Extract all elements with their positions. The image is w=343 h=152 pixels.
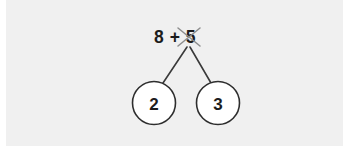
right-node-value: 3 [213, 95, 222, 114]
left-node-group[interactable]: 2 [133, 82, 176, 125]
left-node-value: 2 [149, 95, 158, 114]
left-branch-line [163, 47, 187, 83]
number-bond-diagram: 8 + 5 2 3 [0, 0, 343, 152]
worksheet-canvas: 8 + 5 2 3 [0, 0, 343, 152]
right-node-group[interactable]: 3 [197, 82, 240, 125]
right-branch-line [190, 47, 211, 83]
